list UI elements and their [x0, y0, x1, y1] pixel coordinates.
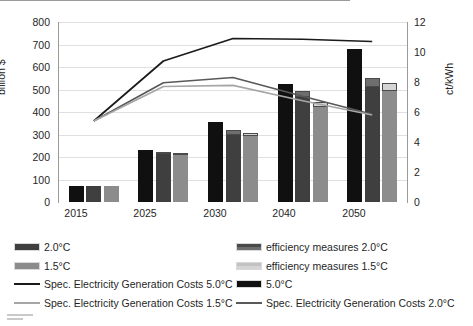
y-tick-left-300: 300 — [8, 130, 50, 141]
legend-column-left: 2.0°C1.5°CSpec. Electricity Generation C… — [14, 238, 236, 312]
legend-color-swatch — [14, 262, 40, 270]
legend-color-swatch — [236, 280, 262, 288]
legend-line-swatch — [14, 280, 40, 288]
y-tick-right-8: 8 — [414, 77, 444, 88]
page-corner-mark — [7, 314, 33, 321]
y-tick-left-100: 100 — [8, 175, 50, 186]
y-axis-title-right: ct/kWh — [443, 63, 455, 95]
x-tick-2050: 2050 — [319, 208, 389, 219]
y-tick-left-400: 400 — [8, 107, 50, 118]
y-axis-left-line — [58, 22, 59, 203]
legend-item-label: efficiency measures 1.5°C — [266, 261, 388, 272]
legend-line-swatch — [236, 299, 262, 307]
legend-item[interactable]: 2.0°C — [14, 238, 236, 257]
legend-item-label: Spec. Electricity Generation Costs 2.0°C — [266, 298, 455, 309]
legend-item[interactable]: Spec. Electricity Generation Costs 2.0°C — [236, 294, 468, 313]
x-tick-2025: 2025 — [110, 208, 180, 219]
y-tick-right-10: 10 — [414, 47, 444, 58]
legend-item[interactable]: efficiency measures 2.0°C — [236, 238, 468, 257]
legend-item[interactable]: Spec. Electricity Generation Costs 1.5°C — [14, 294, 236, 313]
legend-line-swatch — [14, 299, 40, 307]
legend-color-swatch — [236, 243, 262, 251]
y-axis-right-line — [407, 22, 408, 203]
y-tick-left-500: 500 — [8, 85, 50, 96]
x-axis-line — [0, 0, 350, 1]
y-tick-left-700: 700 — [8, 40, 50, 51]
y-tick-right-0: 0 — [414, 197, 444, 208]
line-SpecElectricityGenerationCosts50C — [94, 39, 372, 122]
x-tick-2040: 2040 — [249, 208, 319, 219]
legend-item[interactable]: efficiency measures 1.5°C — [236, 257, 468, 276]
y-tick-left-600: 600 — [8, 62, 50, 73]
legend-item-label: 2.0°C — [44, 242, 70, 253]
legend-item-label: 5.0°C — [266, 279, 292, 290]
y-tick-right-6: 6 — [414, 107, 444, 118]
legend-item-label: Spec. Electricity Generation Costs 5.0°C — [44, 279, 233, 290]
x-tick-2015: 2015 — [41, 208, 111, 219]
legend-item-label: efficiency measures 2.0°C — [266, 242, 388, 253]
legend-item-label: Spec. Electricity Generation Costs 1.5°C — [44, 298, 233, 309]
legend-color-swatch — [236, 262, 262, 270]
legend-item-label: 1.5°C — [44, 261, 70, 272]
lines-layer — [59, 22, 407, 202]
legend-item[interactable]: Spec. Electricity Generation Costs 5.0°C — [14, 275, 236, 294]
y-tick-left-800: 800 — [8, 17, 50, 28]
x-tick-2030: 2030 — [180, 208, 250, 219]
plot-area — [59, 22, 407, 202]
y-tick-left-0: 0 — [8, 197, 50, 208]
y-tick-right-2: 2 — [414, 167, 444, 178]
y-axis-title-left: billion $ — [0, 59, 7, 95]
y-tick-right-4: 4 — [414, 137, 444, 148]
legend-column-right: efficiency measures 2.0°Cefficiency meas… — [236, 238, 468, 312]
y-tick-left-200: 200 — [8, 152, 50, 163]
legend-color-swatch — [14, 243, 40, 251]
chart-container: billion $ ct/kWh 800 700 600 500 400 300… — [0, 0, 473, 326]
legend-item[interactable]: 5.0°C — [236, 275, 468, 294]
chart-legend: 2.0°C1.5°CSpec. Electricity Generation C… — [14, 238, 466, 312]
legend-item[interactable]: 1.5°C — [14, 257, 236, 276]
y-tick-right-12: 12 — [414, 17, 444, 28]
